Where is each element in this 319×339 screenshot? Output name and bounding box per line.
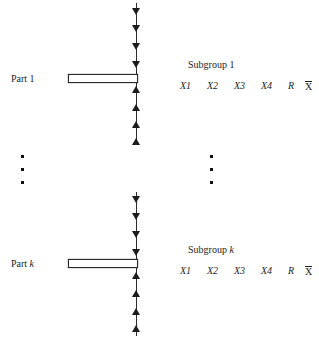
part-label-1-index: 1 xyxy=(30,73,35,84)
subgroup-label-1-prefix: Subgroup xyxy=(188,59,229,70)
measurement-subgroup-diagram: Part 1 Subgroup 1 X1 X2 X3 X4 R X Part k… xyxy=(0,0,319,339)
down-arrow-1-2 xyxy=(132,25,140,32)
up-arrow-1-2 xyxy=(132,104,140,111)
up-arrow-1-1 xyxy=(132,86,140,93)
part-label-1-prefix: Part xyxy=(11,73,30,84)
column-header-1-x2: X2 xyxy=(207,81,218,91)
part-label-1: Part 1 xyxy=(11,74,35,84)
column-header-2-x4: X4 xyxy=(261,266,272,276)
down-arrow-2-3 xyxy=(132,231,140,238)
subgroup-label-2: Subgroup k xyxy=(188,245,234,255)
down-arrow-1-1 xyxy=(132,8,140,15)
right-ellipsis-dot-2 xyxy=(210,168,213,171)
down-arrow-1-3 xyxy=(132,43,140,50)
up-arrow-2-1 xyxy=(132,272,140,279)
up-arrow-2-2 xyxy=(132,290,140,297)
up-arrow-2-4 xyxy=(132,325,140,332)
subgroup-label-2-prefix: Subgroup xyxy=(188,244,229,255)
column-header-2-range: R xyxy=(288,266,294,276)
right-ellipsis-dot-3 xyxy=(210,181,213,184)
right-ellipsis-dot-1 xyxy=(210,155,213,158)
column-header-2-mean: X xyxy=(305,266,312,277)
up-arrow-1-3 xyxy=(132,121,140,128)
column-header-1-x1: X1 xyxy=(180,81,191,91)
column-header-1-range: R xyxy=(288,81,294,91)
part-label-2-prefix: Part xyxy=(11,258,30,269)
part-bar-2 xyxy=(68,259,138,268)
subgroup-label-2-index: k xyxy=(229,244,233,255)
column-header-2-x3: X3 xyxy=(234,266,245,276)
down-arrow-1-4 xyxy=(132,61,140,68)
up-arrow-1-4 xyxy=(132,138,140,145)
part-label-2: Part k xyxy=(11,259,34,269)
column-header-1-x3: X3 xyxy=(234,81,245,91)
part-bar-1 xyxy=(68,74,138,83)
column-header-1-mean: X xyxy=(305,81,312,92)
down-arrow-2-4 xyxy=(132,249,140,256)
subgroup-label-1-index: 1 xyxy=(229,59,234,70)
left-ellipsis-dot-1 xyxy=(21,155,24,158)
part-label-2-index: k xyxy=(30,258,34,269)
x-bar-glyph-2: X xyxy=(305,266,312,277)
column-header-2-x1: X1 xyxy=(180,266,191,276)
column-header-1-x4: X4 xyxy=(261,81,272,91)
column-header-2-x2: X2 xyxy=(207,266,218,276)
left-ellipsis-dot-2 xyxy=(21,168,24,171)
down-arrow-2-1 xyxy=(132,196,140,203)
subgroup-label-1: Subgroup 1 xyxy=(188,60,234,70)
down-arrow-2-2 xyxy=(132,213,140,220)
left-ellipsis-dot-3 xyxy=(21,181,24,184)
x-bar-glyph-1: X xyxy=(305,81,312,92)
up-arrow-2-3 xyxy=(132,308,140,315)
